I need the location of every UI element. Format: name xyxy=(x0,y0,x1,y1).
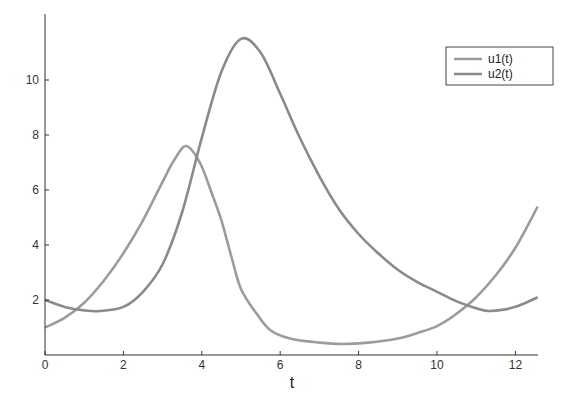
legend: u1(t) u2(t) xyxy=(446,47,553,85)
y-tick-label: 4 xyxy=(32,238,39,252)
x-tick-label: 12 xyxy=(509,358,523,372)
x-ticks: 024681012 xyxy=(42,351,523,372)
legend-label-u2: u2(t) xyxy=(488,67,513,81)
x-tick-label: 6 xyxy=(277,358,284,372)
series-line-u1t xyxy=(45,146,538,344)
y-tick-label: 8 xyxy=(32,128,39,142)
y-tick-label: 2 xyxy=(32,293,39,307)
x-tick-label: 2 xyxy=(120,358,127,372)
line-chart: 024681012 246810 t u1(t) u2(t) xyxy=(0,0,570,406)
x-tick-label: 8 xyxy=(355,358,362,372)
y-tick-label: 10 xyxy=(26,73,40,87)
x-tick-label: 0 xyxy=(42,358,49,372)
x-axis-label: t xyxy=(290,374,295,391)
y-tick-label: 6 xyxy=(32,183,39,197)
legend-label-u1: u1(t) xyxy=(488,52,513,66)
x-tick-label: 10 xyxy=(430,358,444,372)
x-tick-label: 4 xyxy=(198,358,205,372)
